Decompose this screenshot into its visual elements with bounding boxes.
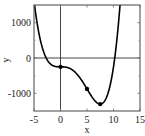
reference-lines (34, 5, 140, 111)
y-tick-label: 1000 (11, 17, 31, 28)
data-markers (58, 65, 102, 107)
data-point-marker (98, 102, 102, 106)
x-tick-label: 10 (109, 114, 119, 125)
x-tick-label: 15 (135, 114, 145, 125)
y-tick-label: -1000 (8, 88, 31, 99)
x-axis-ticks: -5051015 (30, 5, 145, 125)
data-point-marker (58, 65, 62, 69)
y-axis-label: y (0, 58, 11, 63)
x-tick-label: -5 (30, 114, 38, 125)
x-tick-label: 0 (58, 114, 63, 125)
y-tick-label: 0 (26, 53, 31, 64)
data-point-marker (85, 87, 89, 91)
x-axis-label: x (85, 124, 90, 135)
line-chart: -5051015 -100001000 x y (0, 0, 145, 136)
